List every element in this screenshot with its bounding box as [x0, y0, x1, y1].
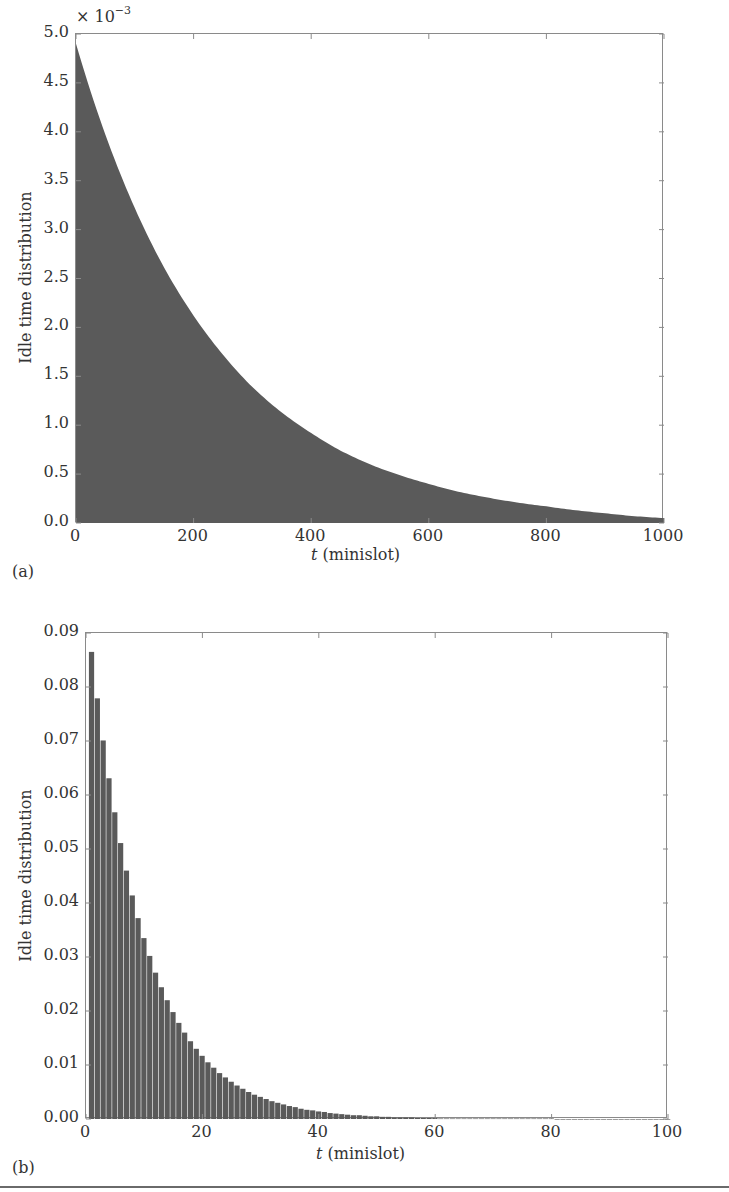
bar — [543, 1118, 548, 1119]
bar — [461, 1118, 466, 1119]
bar — [246, 1092, 251, 1119]
bar — [182, 1033, 187, 1119]
bar — [479, 1118, 484, 1119]
bar — [613, 1119, 618, 1120]
bar — [124, 871, 129, 1119]
y-tick-label: 0.05 — [29, 839, 79, 855]
bar — [467, 1118, 472, 1119]
bar — [601, 1119, 606, 1120]
bar — [572, 1119, 577, 1120]
bar — [211, 1068, 216, 1119]
x-tick-label: 1000 — [633, 528, 693, 544]
y-axis-multiplier: × 10−3 — [76, 6, 131, 26]
bar — [101, 740, 106, 1119]
y-tick-label: 0.01 — [29, 1055, 79, 1071]
bar — [217, 1073, 222, 1119]
y-tick-label: 4.5 — [19, 73, 69, 89]
bar — [653, 1119, 658, 1120]
x-tick-label: 0 — [45, 528, 105, 544]
bar — [310, 1110, 315, 1119]
bar — [205, 1062, 210, 1119]
y-tick-label: 0.08 — [29, 677, 79, 693]
x-tick-label: 400 — [280, 528, 340, 544]
bar — [531, 1118, 536, 1119]
bar — [380, 1117, 385, 1119]
panel-tag-b: (b) — [12, 1158, 35, 1177]
bar — [322, 1112, 327, 1119]
plot-area-b — [85, 632, 667, 1118]
x-tick-label: 60 — [404, 1124, 464, 1140]
bar — [630, 1119, 635, 1120]
bar — [456, 1118, 461, 1119]
bar — [386, 1117, 391, 1119]
bar — [624, 1119, 629, 1120]
y-tick-label: 0.04 — [29, 893, 79, 909]
bar — [555, 1119, 560, 1120]
bar — [648, 1119, 653, 1120]
bar — [520, 1118, 525, 1119]
bar — [176, 1023, 181, 1119]
y-tick-label: 0.09 — [29, 623, 79, 639]
bar — [240, 1089, 245, 1119]
bar — [642, 1119, 647, 1120]
bar — [595, 1119, 600, 1120]
x-tick-label: 20 — [171, 1124, 231, 1140]
bar — [403, 1117, 408, 1119]
bar — [392, 1117, 397, 1119]
bar — [229, 1082, 234, 1119]
bar — [147, 956, 152, 1119]
bar — [112, 812, 117, 1119]
bar — [281, 1104, 286, 1119]
bar — [490, 1118, 495, 1119]
bar — [141, 938, 146, 1119]
page-bottom-rule — [0, 1186, 729, 1188]
y-axis-label-a: Idle time distribution — [16, 128, 35, 428]
y-tick-label: 0.02 — [29, 1001, 79, 1017]
y-tick-label: 0.03 — [29, 947, 79, 963]
y-tick-label: 0.0 — [19, 513, 69, 529]
y-tick-label: 0.5 — [19, 464, 69, 480]
distribution-area — [76, 44, 664, 523]
bar — [368, 1116, 373, 1119]
bar — [153, 973, 158, 1119]
bar — [118, 843, 123, 1119]
bar — [339, 1114, 344, 1119]
bar — [514, 1118, 519, 1119]
bar — [130, 895, 135, 1119]
bar — [135, 918, 140, 1119]
bar — [426, 1118, 431, 1119]
bar — [264, 1099, 269, 1119]
bar — [269, 1101, 274, 1119]
plot-area-a — [75, 33, 663, 522]
bar — [287, 1106, 292, 1119]
bar — [636, 1119, 641, 1120]
area-series-a — [76, 34, 664, 523]
bar — [496, 1118, 501, 1119]
bar — [619, 1119, 624, 1120]
bar — [106, 778, 111, 1119]
y-tick-label: 0.06 — [29, 785, 79, 801]
x-axis-label-b: t (minislot) — [316, 1144, 405, 1163]
bar — [199, 1056, 204, 1119]
bar — [234, 1086, 239, 1119]
y-tick-label: 5.0 — [19, 24, 69, 40]
x-axis-label-a: t (minislot) — [311, 545, 400, 564]
x-tick-label: 0 — [55, 1124, 115, 1140]
bar — [502, 1118, 507, 1119]
bar — [560, 1119, 565, 1120]
panel-tag-a: (a) — [12, 562, 34, 581]
bar — [159, 987, 164, 1119]
bars — [89, 652, 670, 1120]
bar — [345, 1115, 350, 1119]
bar — [607, 1119, 612, 1120]
x-tick-label: 40 — [288, 1124, 348, 1140]
bar — [438, 1118, 443, 1119]
bar — [362, 1116, 367, 1119]
bar — [450, 1118, 455, 1119]
bar — [409, 1117, 414, 1119]
bar — [473, 1118, 478, 1119]
bar — [415, 1118, 420, 1119]
bar — [252, 1095, 257, 1119]
x-tick-label: 200 — [163, 528, 223, 544]
bar — [421, 1118, 426, 1119]
